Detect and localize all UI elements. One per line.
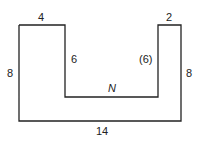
label-right: 8	[186, 68, 192, 79]
label-top-left: 4	[38, 12, 44, 23]
label-inner-right: (6)	[139, 54, 152, 65]
label-inner-bottom: N	[108, 83, 116, 94]
label-inner-left: 6	[71, 54, 77, 65]
label-left: 8	[7, 68, 13, 79]
label-bottom: 14	[96, 126, 108, 137]
label-top-right: 2	[166, 12, 172, 23]
